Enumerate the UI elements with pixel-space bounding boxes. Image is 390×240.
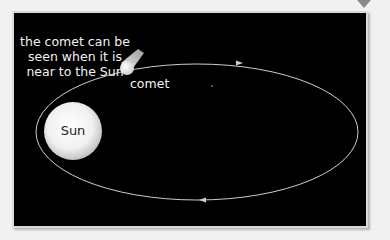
caption-line-3: near to the Sun: [20, 64, 130, 79]
sun-label: Sun: [50, 123, 96, 139]
orbit-arrow-bottom-icon: [199, 198, 206, 203]
caption-line-2: seen when it is: [20, 49, 130, 64]
star-dot: [211, 85, 213, 87]
caption-line-1: the comet can be: [20, 34, 130, 49]
comet-label: comet: [130, 76, 169, 91]
caption-text: the comet can be seen when it is near to…: [20, 34, 130, 79]
orbit-arrow-top-icon: [236, 61, 243, 66]
